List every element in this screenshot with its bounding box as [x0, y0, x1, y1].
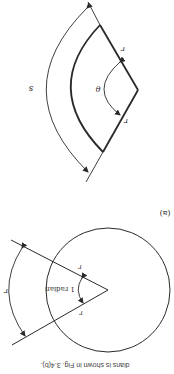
- label-r-arc: r: [3, 287, 8, 296]
- label-r-lower-ray: r: [79, 309, 83, 317]
- angle-one-radian-arc: [78, 278, 83, 303]
- panel-b-sector-diagram: s θ r r: [28, 2, 138, 182]
- label-r-upper: r: [120, 45, 125, 54]
- figure-svg: s θ r r (a) 1 radian: [0, 0, 174, 374]
- panel-a-radian-diagram: (a) 1 radian r r r: [3, 209, 171, 352]
- figure-canvas: s θ r r (a) 1 radian: [0, 0, 174, 374]
- arc-length-r-dimension: [9, 248, 25, 336]
- label-one-radian: 1 radian: [45, 285, 75, 293]
- arc-length-s-dimension: [46, 8, 88, 172]
- radius-line-lower: [103, 90, 138, 152]
- panel-a-label: (a): [159, 209, 170, 218]
- radius-ray-lower: [12, 290, 108, 345]
- label-s: s: [28, 84, 33, 94]
- radius-ray-upper: [11, 240, 108, 290]
- figure-caption: dians is shown in Fig. 3.4(b).: [40, 361, 129, 369]
- label-theta: θ: [95, 84, 100, 93]
- angle-theta-arc: [104, 62, 120, 115]
- extension-line-bottom: [86, 152, 103, 182]
- label-r-upper-ray: r: [78, 263, 82, 271]
- label-r-lower: r: [123, 117, 128, 126]
- extension-line-top: [88, 2, 100, 25]
